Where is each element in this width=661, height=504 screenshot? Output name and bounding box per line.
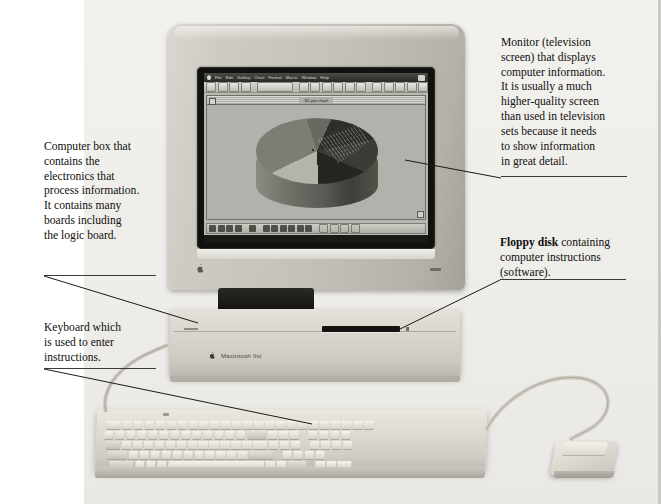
figure-canvas: File Edit Gallery Chart Format Macro Win…	[0, 0, 661, 504]
note-line: is used to enter	[44, 336, 121, 351]
computer-box-note-rule	[44, 275, 156, 276]
monitor-leader	[405, 160, 501, 178]
floppy-note-emphasis: Floppy disk	[500, 236, 558, 249]
note-line: computer information.	[501, 66, 605, 81]
note-line: in great detail.	[501, 155, 605, 170]
note-line: electronics that	[44, 170, 139, 185]
keyboard-note: Keyboard which is used to enter instruct…	[44, 321, 121, 365]
note-line: process information.	[44, 184, 139, 199]
note-line: Computer box that	[44, 140, 139, 155]
note-line: boards including	[44, 214, 139, 229]
note-line: It is usually a much	[501, 80, 605, 95]
note-line: Monitor (television	[501, 36, 605, 51]
note-line: Keyboard which	[44, 321, 121, 336]
computer-box-leader	[44, 276, 198, 323]
note-line: than used in television	[501, 110, 605, 125]
keyboard-note-rule	[44, 368, 156, 369]
note-line-1: Floppy disk containing	[500, 236, 610, 251]
note-line: It contains many	[44, 199, 139, 214]
floppy-note-rest: containing	[558, 236, 610, 249]
floppy-note: Floppy disk containing computer instruct…	[500, 236, 610, 280]
note-line: the logic board.	[44, 229, 139, 244]
note-line: sets because it needs	[501, 125, 605, 140]
monitor-note-rule	[501, 176, 627, 177]
note-line: to show information	[501, 140, 605, 155]
monitor-note: Monitor (television screen) that display…	[501, 36, 605, 169]
computer-box-note: Computer box that contains the electroni…	[44, 140, 139, 244]
floppy-note-rule	[500, 279, 626, 280]
note-line: screen) that displays	[501, 51, 605, 66]
note-line: instructions.	[44, 351, 121, 366]
keyboard-leader	[44, 369, 312, 424]
note-line: contains the	[44, 155, 139, 170]
note-line: computer instructions	[500, 251, 610, 266]
note-line: higher-quality screen	[501, 95, 605, 110]
floppy-leader	[398, 280, 500, 330]
